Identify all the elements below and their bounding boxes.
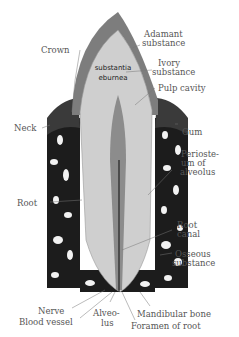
label-root: Root	[17, 199, 37, 208]
label-mandibular-bone: Mandibular bone	[137, 310, 211, 319]
label-pulp-cavity: Pulp cavity	[158, 84, 206, 93]
label-root-canal-2: canal	[177, 230, 200, 239]
label-eburnea: eburnea	[90, 74, 136, 82]
label-gum: Gum	[182, 128, 202, 137]
label-adamant-2: substance	[142, 39, 185, 48]
label-neck: Neck	[14, 124, 36, 133]
label-crown: Crown	[41, 46, 69, 55]
label-alveolus-2: lus	[101, 319, 114, 328]
label-periosteum-3: alveolus	[180, 168, 215, 177]
label-nerve: Nerve	[38, 307, 64, 316]
label-alveolus-1: Alveo-	[93, 309, 120, 318]
label-substantia: substantia	[90, 64, 136, 72]
label-osseous-2: substance	[172, 259, 215, 268]
label-blood-vessel: Blood vessel	[19, 318, 73, 327]
label-ivory-2: substance	[152, 68, 195, 77]
label-foramen-of-root: Foramen of root	[131, 322, 201, 331]
